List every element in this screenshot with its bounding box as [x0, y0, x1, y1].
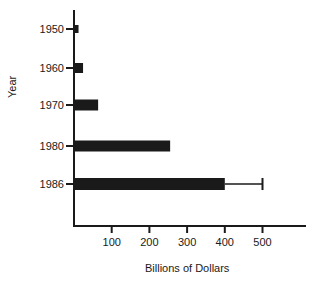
y-axis-label: Year	[6, 76, 18, 98]
x-axis-label: Billions of Dollars	[145, 262, 229, 274]
bar-chart: 19501960197019801986 100200300400500	[0, 0, 316, 282]
bar-1986	[74, 178, 225, 190]
bars	[74, 25, 263, 190]
bar-1970	[74, 100, 98, 111]
y-ticks: 19501960197019801986	[40, 23, 74, 190]
x-tick-label: 100	[103, 236, 121, 248]
bar-1980	[74, 141, 170, 152]
x-tick-label: 400	[216, 236, 234, 248]
y-tick-label: 1960	[40, 62, 64, 74]
y-tick-label: 1970	[40, 99, 64, 111]
x-ticks: 100200300400500	[103, 226, 272, 248]
bar-1960	[74, 63, 83, 73]
y-tick-label: 1986	[40, 178, 64, 190]
x-tick-label: 500	[253, 236, 271, 248]
x-tick-label: 300	[178, 236, 196, 248]
x-tick-label: 200	[140, 236, 158, 248]
y-tick-label: 1980	[40, 140, 64, 152]
y-tick-label: 1950	[40, 23, 64, 35]
